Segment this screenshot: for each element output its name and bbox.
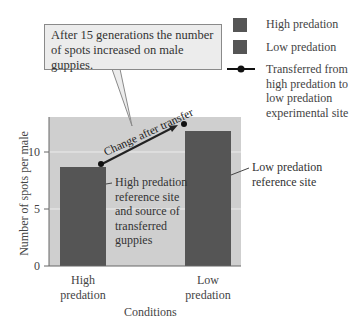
x-axis-label: Conditions	[124, 305, 177, 320]
y-axis-label: Number of spots per male	[17, 114, 32, 274]
legend-label-low: Low predation	[266, 40, 336, 55]
transfer-start-dot	[98, 161, 104, 167]
bar-high-predation	[60, 167, 106, 266]
xcat-low: Lowpredation	[175, 273, 241, 303]
ytick-5: 5	[34, 202, 40, 217]
legend-swatch-low-icon	[233, 40, 247, 54]
legend-label-high: High predation	[266, 17, 338, 32]
legend-swatch-high-icon	[233, 18, 247, 32]
annotation-low-ref: Low predation reference site	[252, 160, 322, 189]
legend-transfer-dot-icon	[238, 66, 245, 73]
bar-low-predation	[185, 131, 231, 266]
annotation-high-ref: High predation reference site and source…	[115, 175, 187, 248]
legend-label-transfer: Transferred from high predation to low p…	[266, 62, 348, 120]
ytick-0: 0	[34, 259, 40, 274]
xcat-high: Highpredation	[50, 273, 116, 303]
callout-box: After 15 generations the number of spots…	[44, 24, 222, 70]
